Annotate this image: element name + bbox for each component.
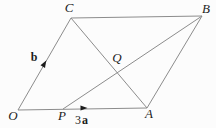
label-B: B	[202, 1, 210, 16]
label-vec-b: b	[31, 50, 38, 64]
geometry-figure: OPABCQb3a	[0, 0, 216, 128]
label-coef-3: 3	[75, 113, 81, 127]
label-P: P	[57, 108, 66, 123]
label-O: O	[8, 108, 18, 123]
label-Q: Q	[112, 50, 122, 65]
label-C: C	[65, 0, 74, 15]
label-vec-a: a	[82, 113, 88, 127]
geometry-canvas: OPABCQb3a	[0, 0, 216, 128]
label-A: A	[144, 106, 153, 121]
